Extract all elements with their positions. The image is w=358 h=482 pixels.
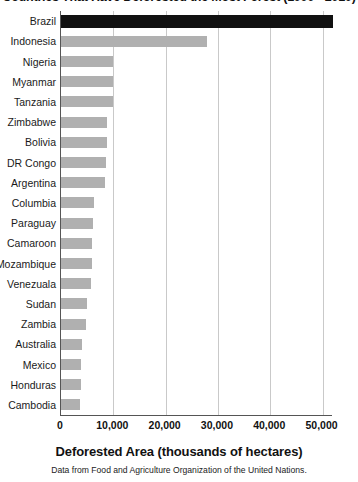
bar [61,197,94,208]
plot-wrapper: BrazilIndonesiaNigeriaMyanmarTanzaniaZim… [0,11,358,415]
source-note: Data from Food and Agriculture Organizat… [0,465,358,475]
bar [61,238,92,249]
category-label: Argentina [11,176,56,190]
category-label: Columbia [12,196,56,210]
category-label: Australia [15,337,56,351]
category-label: Mozambique [0,257,56,271]
bar [61,218,93,229]
gridline [218,11,219,415]
category-label: DR Congo [7,156,56,170]
category-label: Cambodia [8,398,56,412]
category-label: Zambia [21,317,56,331]
category-label: Tanzania [14,95,56,109]
deforestation-bar-chart: Countries That Have Deforested the Most … [0,0,358,482]
gridline [323,11,324,415]
category-label: Paraguay [11,216,56,230]
plot-area [60,11,332,415]
chart-title-clipped: Countries That Have Deforested the Most … [0,0,358,9]
category-label: Nigeria [23,55,56,69]
bar [61,15,333,28]
x-tick-label: 20,000 [149,419,181,431]
category-label: Brazil [30,14,56,28]
category-label: Camaroon [7,236,56,250]
bar [61,56,113,67]
x-tick-label: 40,000 [253,419,285,431]
bar [61,359,81,370]
bar [61,157,106,168]
category-label: Venezuala [7,277,56,291]
bar [61,319,86,330]
category-label: Bolivia [25,135,56,149]
bar [61,399,80,410]
gridline [270,11,271,415]
category-label: Mexico [23,358,56,372]
gridline [113,11,114,415]
bar [61,379,81,390]
bar [61,298,87,309]
category-label: Myanmar [12,75,56,89]
category-label: Sudan [26,297,56,311]
bar [61,96,113,107]
x-axis-title: Deforested Area (thousands of hectares) [0,444,358,459]
category-label: Zimbabwe [8,115,56,129]
bar [61,258,92,269]
category-label: Honduras [10,378,56,392]
bar [61,177,105,188]
bar [61,117,107,128]
bar [61,339,82,350]
chart-title: Countries That Have Deforested the Most … [2,0,355,4]
value-axis-line [60,415,332,416]
x-tick-label: 30,000 [201,419,233,431]
x-tick-label: 50,000 [305,419,337,431]
gridline [166,11,167,415]
x-tick-label: 0 [57,419,63,431]
bar [61,278,91,289]
x-tick-label: 10,000 [96,419,128,431]
category-label: Indonesia [10,34,56,48]
bar [61,137,107,148]
category-axis-labels: BrazilIndonesiaNigeriaMyanmarTanzaniaZim… [0,11,60,415]
bar [61,36,207,47]
bar [61,76,113,87]
